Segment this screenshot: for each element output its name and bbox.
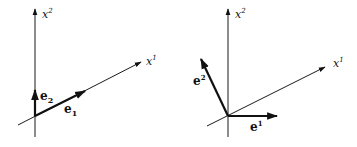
- right-e2-vector: [201, 59, 228, 116]
- right-e2-label: e2: [193, 73, 206, 88]
- right-x1-axis-label: x1: [333, 56, 344, 70]
- left-x1-axis-label: x1: [146, 54, 157, 68]
- left-e1-label: e1: [64, 102, 77, 118]
- right-e1-label: e1: [250, 119, 263, 134]
- basis-vectors-diagram: x2 x1 e2 e1 x2 x1 e2 e1: [0, 0, 357, 147]
- left-panel: x2 x1 e2 e1: [18, 7, 157, 137]
- left-x2-axis-label: x2: [42, 7, 53, 21]
- left-e2-label: e2: [40, 89, 53, 105]
- right-x1-axis: [207, 67, 325, 126]
- right-panel: x2 x1 e2 e1: [193, 7, 344, 137]
- right-x2-axis-label: x2: [235, 7, 246, 21]
